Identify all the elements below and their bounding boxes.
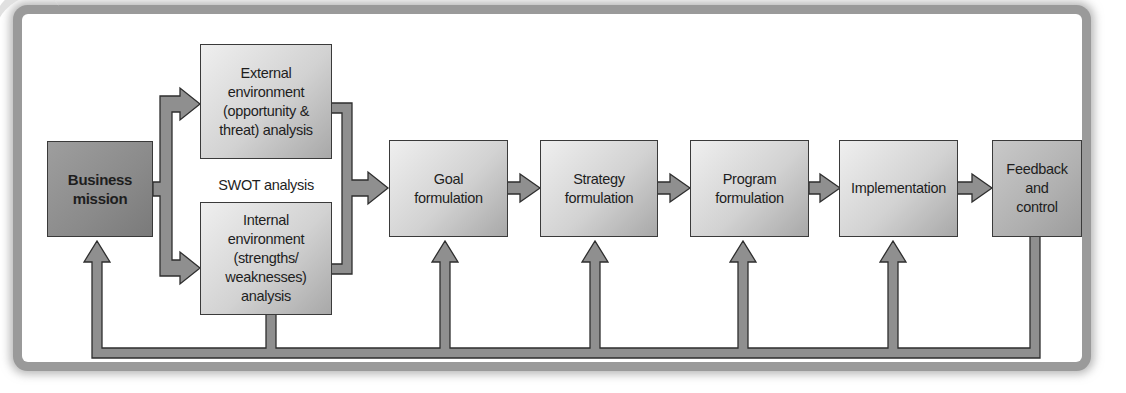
node-label: Goal formulation: [414, 170, 482, 208]
node-label: Implementation: [851, 179, 946, 198]
node-label: Internal environment (strengths/ weaknes…: [201, 211, 331, 306]
arrow-strategy-to-program: [657, 174, 690, 202]
arrow-goal-to-strategy: [507, 174, 540, 202]
node-external-environment: External environment (opportunity & thre…: [200, 44, 332, 159]
node-program-formulation: Program formulation: [690, 140, 809, 237]
node-label: Program formulation: [715, 170, 783, 208]
node-label: Business mission: [68, 170, 132, 208]
arrow-implementation-to-feedback: [957, 174, 992, 202]
node-business-mission: Business mission: [47, 141, 153, 237]
node-implementation: Implementation: [839, 140, 958, 237]
node-label: External environment (opportunity & thre…: [219, 64, 313, 140]
swot-merge-connector: [331, 103, 388, 274]
node-feedback-control: Feedback and control: [992, 140, 1082, 237]
swot-analysis-label: SWOT analysis: [200, 177, 332, 193]
node-label: Strategy formulation: [565, 170, 633, 208]
node-goal-formulation: Goal formulation: [389, 140, 508, 237]
node-label: Feedback and control: [1006, 160, 1067, 217]
node-strategy-formulation: Strategy formulation: [540, 140, 658, 237]
arrow-program-to-implementation: [809, 174, 840, 202]
node-internal-environment: Internal environment (strengths/ weaknes…: [200, 202, 332, 315]
mission-split-connector: [153, 88, 200, 284]
